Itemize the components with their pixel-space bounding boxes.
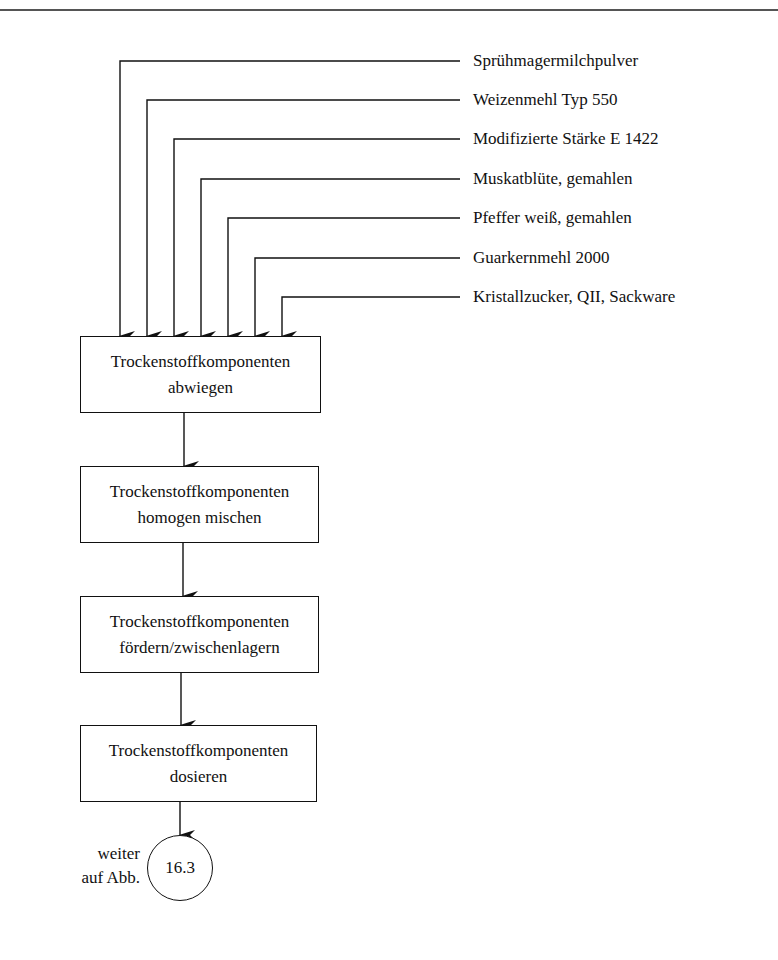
step-1-line1: Trockenstoffkomponenten (111, 349, 290, 375)
input-label-weizenmehl: Weizenmehl Typ 550 (473, 90, 617, 110)
step-box-abwiegen: Trockenstoffkomponenten abwiegen (80, 336, 321, 413)
input-line-1 (120, 61, 460, 336)
step-4-line2: dosieren (170, 764, 228, 790)
input-label-pfeffer: Pfeffer weiß, gemahlen (473, 208, 632, 228)
step-4-line1: Trockenstoffkomponenten (109, 738, 288, 764)
input-label-spruehmagermilchpulver: Sprühmagermilchpulver (473, 51, 638, 71)
connector-note-line1: weiter (60, 842, 140, 866)
input-label-guarkernmehl: Guarkernmehl 2000 (473, 248, 609, 268)
step-box-foerdern-zwischenlagern: Trockenstoffkomponenten fördern/zwischen… (80, 596, 319, 673)
input-line-5 (228, 218, 460, 336)
step-2-line2: homogen mischen (137, 505, 261, 531)
offpage-connector: 16.3 (147, 835, 213, 901)
input-label-modifizierte-staerke: Modifizierte Stärke E 1422 (473, 129, 659, 149)
connector-note-line2: auf Abb. (60, 866, 140, 890)
step-1-line2: abwiegen (168, 375, 233, 401)
step-2-line1: Trockenstoffkomponenten (110, 479, 289, 505)
input-label-kristallzucker: Kristallzucker, QII, Sackware (473, 287, 675, 307)
step-3-line1: Trockenstoffkomponenten (110, 609, 289, 635)
step-box-dosieren: Trockenstoffkomponenten dosieren (80, 725, 317, 802)
step-box-homogen-mischen: Trockenstoffkomponenten homogen mischen (80, 466, 319, 543)
step-3-line2: fördern/zwischenlagern (119, 635, 279, 661)
connector-note: weiter auf Abb. (60, 842, 140, 890)
input-line-7 (282, 297, 460, 336)
input-label-muskatbluete: Muskatblüte, gemahlen (473, 169, 633, 189)
connector-label: 16.3 (165, 858, 195, 878)
input-line-3 (174, 139, 460, 336)
